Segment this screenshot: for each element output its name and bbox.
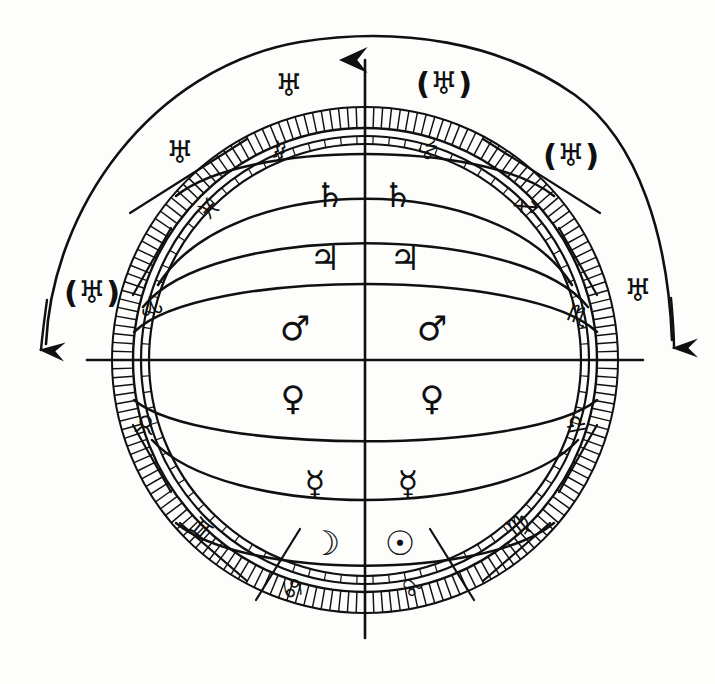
degree-tick bbox=[596, 342, 617, 343]
degree-tick bbox=[146, 476, 164, 486]
degree-tick bbox=[593, 316, 614, 320]
degree-tick bbox=[142, 469, 161, 479]
degree-tick bbox=[373, 108, 374, 129]
planet-symbol-layer: ♄♄♃♃♂♂♀♀☿☿☽☉ bbox=[280, 175, 447, 563]
degree-tick bbox=[590, 416, 610, 421]
degree-tick bbox=[437, 581, 444, 601]
degree-tick bbox=[120, 299, 140, 304]
uranus-marker-left-outer: (♅) bbox=[64, 274, 120, 310]
ladder-rung bbox=[536, 223, 542, 228]
degree-tick bbox=[467, 132, 476, 151]
zodiac-symbol-cancer: ♋ bbox=[276, 573, 310, 602]
ladder-rung bbox=[308, 569, 310, 577]
degree-tick bbox=[146, 234, 164, 244]
degree-tick bbox=[452, 575, 460, 594]
degree-tick bbox=[590, 299, 610, 304]
ladder-rung bbox=[156, 437, 163, 440]
degree-tick bbox=[467, 569, 476, 588]
ladder-rung bbox=[178, 479, 185, 483]
degree-tick bbox=[595, 392, 616, 395]
ladder-rung bbox=[420, 569, 422, 577]
ladder-rung bbox=[503, 188, 508, 194]
degree-tick bbox=[429, 117, 435, 137]
ladder-rung bbox=[341, 137, 342, 145]
planet-symbol-mercury-left: ☿ bbox=[305, 463, 326, 503]
degree-tick bbox=[389, 109, 391, 129]
degree-tick bbox=[553, 211, 570, 224]
planet-symbol-saturn-right: ♄ bbox=[383, 175, 413, 215]
degree-tick bbox=[596, 334, 616, 336]
degree-tick bbox=[397, 110, 400, 130]
ladder-rung bbox=[142, 376, 150, 377]
ladder-rung bbox=[536, 492, 542, 497]
degree-tick bbox=[112, 351, 133, 352]
planet-symbol-jupiter-right: ♃ bbox=[390, 238, 420, 278]
zodiac-symbol-capricorn: ♑ bbox=[411, 136, 445, 165]
ladder-rung bbox=[478, 544, 482, 551]
ladder-rung bbox=[235, 536, 240, 543]
ladder-rung bbox=[561, 265, 568, 268]
degree-tick bbox=[160, 211, 177, 223]
ladder-rung bbox=[235, 178, 240, 185]
ladder-rung bbox=[324, 572, 325, 580]
ladder-rung bbox=[170, 466, 177, 470]
zodiac-symbol-sagittarius: ♐ bbox=[507, 189, 544, 225]
degree-tick bbox=[321, 110, 325, 131]
ladder-rung bbox=[324, 140, 325, 148]
degree-tick bbox=[113, 342, 134, 343]
degree-tick bbox=[389, 591, 391, 612]
ladder-rung bbox=[491, 178, 496, 185]
ladder-rung bbox=[170, 250, 177, 254]
degree-tick bbox=[113, 384, 134, 386]
ladder-rung bbox=[478, 169, 482, 176]
ladder-rung bbox=[222, 188, 227, 194]
degree-tick bbox=[113, 376, 134, 377]
degree-tick bbox=[304, 114, 309, 135]
ladder-rung bbox=[545, 236, 552, 240]
planet-symbol-venus-right: ♀ bbox=[420, 378, 445, 418]
ladder-rung bbox=[248, 544, 252, 551]
ladder-rung bbox=[545, 479, 552, 483]
ladder-rung bbox=[162, 265, 169, 268]
ladder-rung bbox=[143, 327, 151, 328]
degree-tick bbox=[543, 197, 559, 211]
degree-tick bbox=[597, 368, 618, 369]
degree-tick bbox=[356, 592, 357, 613]
degree-tick bbox=[125, 282, 145, 289]
ladder-rung bbox=[188, 223, 194, 228]
ladder-rung bbox=[293, 564, 296, 572]
degree-tick bbox=[112, 368, 133, 369]
degree-tick bbox=[118, 408, 138, 412]
degree-tick bbox=[592, 408, 613, 412]
planet-symbol-mercury-right: ☿ bbox=[398, 463, 419, 503]
degree-tick bbox=[592, 307, 612, 311]
ladder-rung bbox=[526, 504, 532, 509]
uranus-marker-right-upper: (♅) bbox=[543, 137, 599, 173]
degree-tick bbox=[444, 122, 451, 142]
degree-tick bbox=[113, 334, 134, 336]
ladder-rung bbox=[341, 575, 342, 583]
planet-symbol-mars-right: ♂ bbox=[417, 308, 447, 348]
degree-tick bbox=[118, 307, 138, 311]
ladder-rung bbox=[142, 344, 150, 345]
ladder-rung bbox=[579, 391, 587, 392]
ladder-rung bbox=[178, 236, 185, 240]
degree-tick bbox=[150, 483, 168, 494]
degree-tick bbox=[321, 588, 325, 609]
degree-tick bbox=[295, 117, 301, 137]
degree-tick bbox=[339, 591, 341, 612]
degree-tick bbox=[339, 109, 341, 129]
zodiac-symbol-libra: ♎ bbox=[562, 408, 590, 441]
degree-tick bbox=[160, 496, 177, 508]
degree-tick bbox=[254, 133, 263, 152]
degree-tick bbox=[562, 483, 580, 494]
degree-tick bbox=[566, 234, 585, 244]
degree-tick bbox=[165, 503, 182, 516]
degree-tick bbox=[330, 109, 333, 130]
degree-tick bbox=[548, 503, 565, 516]
ladder-rung bbox=[553, 250, 560, 254]
ladder-rung bbox=[389, 137, 390, 145]
planet-symbol-saturn-left: ♄ bbox=[315, 175, 345, 215]
degree-tick bbox=[586, 282, 606, 289]
ladder-rung bbox=[143, 391, 151, 392]
